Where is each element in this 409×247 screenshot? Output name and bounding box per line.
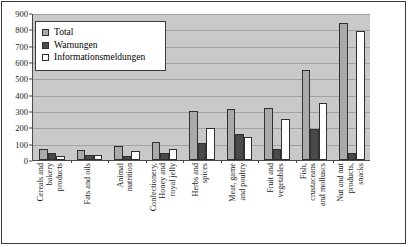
chart-legend: TotalWarnungenInformationsmeldungen: [35, 21, 166, 71]
bar: [152, 142, 161, 160]
category-label-line: Honey and: [159, 163, 168, 199]
bar: [319, 103, 328, 160]
chart-frame: 0100200300400500600700800900 Cereals and…: [1, 1, 406, 244]
bar: [302, 70, 311, 160]
y-tick-label-400: 400: [15, 91, 28, 100]
category-label: Herbs andspices: [182, 163, 220, 196]
y-axis: 0100200300400500600700800900: [2, 14, 32, 162]
x-axis-category-labels: Cereals andbakeryproductsFats and oilsAn…: [32, 163, 370, 247]
category-label-line: Fats and oils: [84, 163, 93, 204]
category-label-line: and molluscs: [319, 163, 328, 206]
category-label-line: products,: [347, 163, 356, 193]
category-label: Meat, gameand poultry: [220, 163, 258, 202]
category-label: Fish,crustaceansand molluscs: [295, 163, 333, 206]
category-label: Nut and nutproducts,snacks: [332, 163, 370, 202]
bar: [235, 134, 244, 160]
bar: [310, 129, 319, 160]
bar: [356, 31, 365, 160]
y-tick-label-900: 900: [15, 10, 28, 19]
bar: [56, 156, 65, 160]
bar: [123, 156, 132, 160]
category-label-line: vegetables: [277, 163, 286, 198]
y-tick-label-0: 0: [24, 157, 28, 166]
bar: [131, 151, 140, 160]
category-label-line: crustaceans: [309, 163, 318, 201]
category-label-line: products: [56, 163, 65, 191]
category-label: Animalnutrition: [107, 163, 145, 191]
category-label-line: Fruit and: [267, 163, 276, 193]
category-label-line: bakery: [46, 163, 55, 185]
bar: [114, 146, 123, 160]
bar: [281, 119, 290, 160]
legend-label: Warnungen: [54, 41, 98, 51]
legend-swatch-icon: [42, 54, 49, 61]
category-label-line: and poultry: [239, 163, 248, 201]
category-label-line: snacks: [357, 163, 366, 185]
bar: [85, 155, 94, 160]
bar: [39, 149, 48, 160]
bar: [189, 111, 198, 160]
category-label-line: Meat, game: [229, 163, 238, 202]
bar: [94, 155, 103, 160]
category-label: Cereals andbakeryproducts: [32, 163, 70, 201]
category-label: Fats and oils: [70, 163, 108, 204]
legend-item: Warnungen: [42, 41, 160, 51]
y-tick-label-300: 300: [15, 108, 28, 117]
legend-swatch-icon: [42, 29, 49, 36]
legend-label: Informationsmeldungen: [54, 53, 145, 63]
bar-group: [221, 14, 259, 160]
y-tick-label-600: 600: [15, 59, 28, 68]
bar: [198, 143, 207, 160]
bar: [227, 109, 236, 160]
bar: [264, 108, 273, 160]
bar-group: [333, 14, 371, 160]
category-label: Fruit andvegetables: [257, 163, 295, 198]
bar: [244, 137, 253, 160]
legend-item: Total: [42, 28, 160, 38]
bar: [273, 149, 282, 160]
bar-group: [183, 14, 221, 160]
y-tick-label-700: 700: [15, 42, 28, 51]
legend-label: Total: [54, 28, 73, 38]
y-tick-label-500: 500: [15, 75, 28, 84]
bar-group: [296, 14, 334, 160]
y-tick-label-100: 100: [15, 140, 28, 149]
category-label-line: royal jelly: [169, 163, 178, 196]
bar: [339, 23, 348, 160]
bar: [348, 153, 357, 160]
category-label: Confectionery,Honey androyal jelly: [145, 163, 183, 211]
legend-item: Informationsmeldungen: [42, 53, 160, 63]
bar: [169, 149, 178, 160]
bar: [48, 153, 57, 160]
bar: [160, 153, 169, 160]
bar: [77, 150, 86, 160]
category-label-line: Nut and nut: [337, 163, 346, 202]
category-label-line: nutrition: [126, 163, 135, 191]
legend-swatch-icon: [42, 42, 49, 49]
category-label-line: spices: [201, 163, 210, 183]
bar-group: [258, 14, 296, 160]
category-label-line: Confectionery,: [150, 163, 159, 211]
y-tick-label-200: 200: [15, 124, 28, 133]
y-tick-label-800: 800: [15, 26, 28, 35]
bar: [206, 128, 215, 160]
